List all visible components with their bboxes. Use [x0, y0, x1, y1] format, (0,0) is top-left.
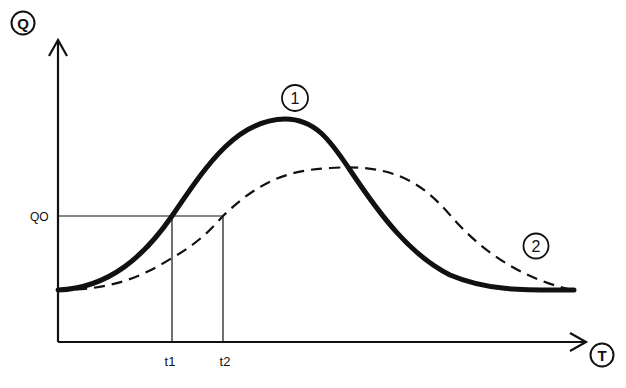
svg-text:T: T — [597, 347, 606, 364]
diagram-canvas: Q T QO t1 t2 1 2 — [0, 0, 626, 388]
svg-text:1: 1 — [291, 90, 300, 107]
x-axis-label: T — [591, 344, 614, 367]
curve-1-solid — [58, 119, 574, 290]
curve-2-dashed — [58, 167, 572, 290]
curve-2-label: 2 — [524, 234, 549, 259]
svg-text:Q: Q — [17, 15, 29, 32]
curve-1-label: 1 — [282, 85, 308, 111]
y-axis-label: Q — [12, 12, 35, 35]
svg-text:2: 2 — [532, 238, 541, 255]
t1-label: t1 — [165, 354, 176, 369]
threshold-label: QO — [30, 210, 49, 224]
t2-label: t2 — [220, 354, 231, 369]
